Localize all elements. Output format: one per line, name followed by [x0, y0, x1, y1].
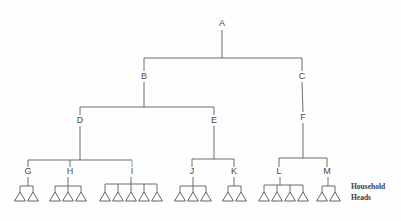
node-label-h: H	[67, 166, 74, 176]
node-label-g: G	[24, 166, 31, 176]
edge-group-d	[28, 126, 132, 167]
caption-line-1: Household	[351, 182, 386, 191]
household-head-triangle-l-3	[298, 192, 309, 201]
household-connector-k	[228, 177, 241, 192]
household-connector-i	[105, 177, 157, 192]
household-connector-m	[322, 177, 335, 192]
edge-c-f	[302, 82, 303, 112]
household-head-triangle-k-0	[223, 192, 234, 201]
edge-group-a	[144, 30, 302, 71]
household-head-triangle-j-0	[175, 192, 186, 201]
node-label-j: J	[190, 166, 195, 176]
household-head-triangle-l-1	[272, 192, 283, 201]
household-head-triangle-i-3	[139, 192, 150, 201]
edge-group-e	[192, 126, 234, 167]
node-label-b: B	[141, 71, 147, 81]
node-label-layer: ABCDEFGHIJKLM	[24, 18, 330, 176]
household-head-triangle-h-2	[76, 192, 87, 201]
household-head-triangle-i-1	[113, 192, 124, 201]
edge-group-c	[302, 82, 303, 112]
household-head-triangle-i-4	[152, 192, 163, 201]
household-head-triangle-l-0	[259, 192, 270, 201]
node-label-d: D	[77, 115, 84, 125]
household-head-triangle-m-1	[330, 192, 341, 201]
node-label-c: C	[299, 71, 306, 81]
node-label-i: I	[131, 166, 134, 176]
household-connector-l	[264, 177, 303, 192]
household-head-triangle-i-0	[100, 192, 111, 201]
household-head-triangle-h-1	[63, 192, 74, 201]
household-connector-h	[55, 177, 81, 192]
household-head-triangle-g-1	[28, 192, 39, 201]
edge-group-f	[279, 123, 327, 167]
household-head-triangle-h-0	[50, 192, 61, 201]
edge-group-b	[80, 82, 214, 115]
household-head-triangle-j-2	[201, 192, 212, 201]
node-label-m: M	[323, 166, 331, 176]
household-head-triangle-g-0	[15, 192, 26, 201]
household-connector-g	[20, 177, 33, 192]
node-label-k: K	[231, 166, 237, 176]
caption-line-2: Heads	[351, 193, 371, 202]
household-head-triangle-j-1	[188, 192, 199, 201]
household-head-triangle-k-1	[236, 192, 247, 201]
household-connector-j	[180, 177, 206, 192]
household-head-triangle-m-0	[317, 192, 328, 201]
kinship-tree-diagram: ABCDEFGHIJKLM Household Heads	[0, 0, 401, 221]
node-label-a: A	[219, 18, 225, 28]
node-label-l: L	[276, 166, 281, 176]
household-head-triangle-l-2	[285, 192, 296, 201]
node-label-e: E	[211, 115, 217, 125]
household-head-triangle-i-2	[126, 192, 137, 201]
node-label-f: F	[300, 112, 306, 122]
household-head-triangles	[15, 192, 341, 201]
tree-svg: ABCDEFGHIJKLM Household Heads	[0, 0, 401, 221]
